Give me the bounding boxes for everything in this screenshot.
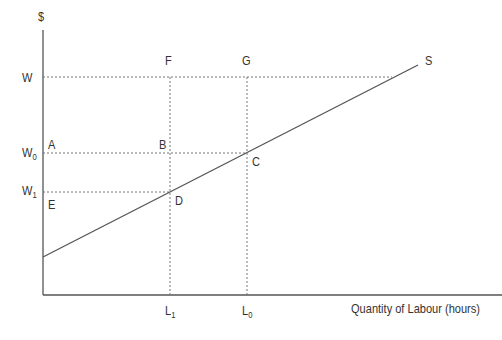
tick-l1: L1	[165, 304, 175, 317]
supply-curve	[43, 65, 418, 257]
point-label-a: A	[48, 138, 55, 151]
tick-w: W	[22, 71, 32, 84]
point-label-d: D	[175, 194, 183, 207]
tick-w0-main: W	[22, 145, 32, 160]
point-label-e: E	[48, 198, 55, 211]
tick-w1: W1	[22, 184, 37, 197]
tick-l1-sub: 1	[171, 310, 175, 320]
tick-w0: W0	[22, 146, 37, 159]
tick-l0-sub: 0	[248, 310, 252, 320]
point-label-c: C	[252, 155, 260, 168]
tick-l0: L0	[242, 304, 252, 317]
point-label-b: B	[159, 138, 166, 151]
x-axis-label: Quantity of Labour (hours)	[351, 302, 480, 315]
point-label-f: F	[165, 54, 172, 67]
tick-w0-sub: 0	[32, 152, 36, 162]
curve-label-s: S	[425, 54, 432, 67]
tick-w1-main: W	[22, 183, 32, 198]
point-label-g: G	[242, 54, 251, 67]
tick-w1-sub: 1	[32, 190, 36, 200]
y-axis-label: $	[38, 10, 44, 23]
chart-canvas	[0, 0, 502, 340]
